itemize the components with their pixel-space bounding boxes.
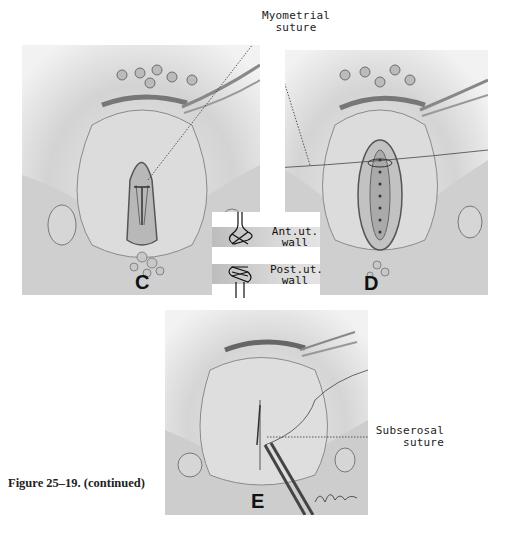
subserosal-suture-callout: Subserosal suture (362, 425, 444, 449)
panel-d-label: D (364, 272, 378, 295)
callout-line2: suture (362, 437, 444, 449)
myometrial-suture-callout: Myometrial suture (248, 10, 344, 34)
anterior-wall-label: Ant.ut. wall (270, 226, 320, 248)
callout-line2: suture (248, 22, 344, 34)
posterior-wall-label: Post.ut. wall (270, 264, 320, 286)
figure-caption: Figure 25–19. (continued) (8, 476, 145, 491)
panel-c-label: C (135, 271, 149, 294)
panel-e-drawing (165, 310, 368, 515)
panel-e-label: E (251, 490, 264, 513)
uterine-wall-schematic-inset: Ant.ut. wall Post.ut. wall (212, 212, 320, 298)
panel-e-illustration: E (165, 310, 368, 515)
